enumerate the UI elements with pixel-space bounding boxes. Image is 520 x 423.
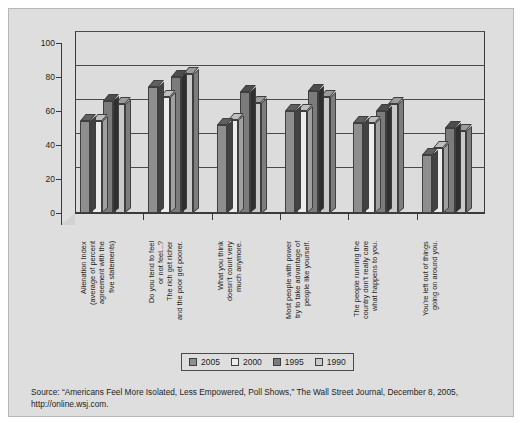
- legend-label: 2005: [201, 357, 220, 367]
- x-axis-labels: Alienation Index (average of percent agr…: [61, 241, 485, 351]
- chart-plot-area: 020406080100: [61, 31, 485, 225]
- bar-side: [113, 96, 119, 213]
- bar-side: [181, 72, 187, 213]
- bar-groups: [75, 31, 485, 213]
- y-axis-tick-mark: [56, 179, 61, 180]
- bar-side: [238, 114, 244, 213]
- x-axis-label-6: You're left out of things going on aroun…: [421, 241, 439, 349]
- bar-group: [212, 31, 280, 213]
- bar-face: [80, 121, 90, 213]
- legend-swatch-icon: [315, 358, 323, 366]
- bar-side: [363, 118, 369, 213]
- bar-group: [417, 31, 485, 213]
- bar-2005: [422, 155, 432, 213]
- bar-side: [398, 99, 404, 213]
- y-axis-tick-mark: [56, 111, 61, 112]
- bar-side: [443, 143, 449, 213]
- legend-label: 1995: [285, 357, 304, 367]
- x-axis-label-2: Do you tend to feel or not feel...? The …: [147, 241, 184, 349]
- bar-face: [217, 125, 227, 213]
- figure-container: 020406080100 Alienation Index (average o…: [8, 8, 514, 417]
- group-separator: [212, 213, 213, 220]
- x-axis-label-1: Alienation Index (average of percent agr…: [79, 241, 116, 349]
- plot-floor-left: [61, 213, 75, 225]
- source-note: Source: “Americans Feel More Isolated, L…: [31, 387, 495, 410]
- legend-swatch-icon: [231, 358, 239, 366]
- y-axis-line: [61, 43, 62, 225]
- bar-side: [170, 92, 176, 213]
- bar-side: [158, 82, 164, 213]
- legend-label: 1990: [327, 357, 346, 367]
- group-separator: [348, 213, 349, 220]
- bar-group: [280, 31, 348, 213]
- bar-2005: [353, 123, 363, 213]
- bar-side: [193, 69, 199, 213]
- bar-side: [102, 116, 108, 213]
- y-axis-tick-mark: [56, 43, 61, 44]
- legend-item-2000[interactable]: 2000: [231, 357, 262, 367]
- bar-face: [422, 155, 432, 213]
- bar-side: [261, 97, 267, 213]
- bar-side: [318, 86, 324, 213]
- legend-item-1990[interactable]: 1990: [315, 357, 346, 367]
- bar-side: [90, 116, 96, 213]
- bar-side: [307, 106, 313, 213]
- group-separator: [280, 213, 281, 220]
- source-line-1: Source: “Americans Feel More Isolated, L…: [31, 387, 495, 399]
- bar-side: [295, 106, 301, 213]
- bar-side: [432, 150, 438, 213]
- bar-side: [227, 120, 233, 213]
- legend-item-2005[interactable]: 2005: [189, 357, 220, 367]
- bar-side: [330, 92, 336, 213]
- bar-2005: [217, 125, 227, 213]
- bar-group: [143, 31, 211, 213]
- bar-side: [125, 99, 131, 213]
- legend-swatch-icon: [273, 358, 281, 366]
- y-axis-tick-mark: [56, 213, 61, 214]
- x-axis-label-3: What you think doesn't count very much a…: [216, 241, 244, 349]
- bar-group: [75, 31, 143, 213]
- chart-legend: 2005200019951990: [181, 353, 354, 371]
- bar-face: [285, 111, 295, 213]
- group-separator: [417, 213, 418, 220]
- bar-2005: [148, 87, 158, 213]
- legend-item-1995[interactable]: 1995: [273, 357, 304, 367]
- bar-2005: [80, 121, 90, 213]
- bar-face: [148, 87, 158, 213]
- bar-side: [455, 123, 461, 213]
- group-separator: [143, 213, 144, 220]
- bar-side: [466, 126, 472, 213]
- bar-side: [386, 106, 392, 213]
- bar-side: [250, 87, 256, 213]
- legend-label: 2000: [243, 357, 262, 367]
- source-line-2: http://online.wsj.com.: [31, 399, 495, 411]
- y-axis-tick-mark: [56, 77, 61, 78]
- x-axis-label-4: Most people with power try to take advan…: [284, 241, 312, 349]
- legend-swatch-icon: [189, 358, 197, 366]
- bar-group: [348, 31, 416, 213]
- bar-2005: [285, 111, 295, 213]
- bar-face: [353, 123, 363, 213]
- bar-side: [375, 118, 381, 213]
- y-axis-tick-mark: [56, 145, 61, 146]
- x-axis-label-5: The people running the country don't rea…: [352, 241, 380, 349]
